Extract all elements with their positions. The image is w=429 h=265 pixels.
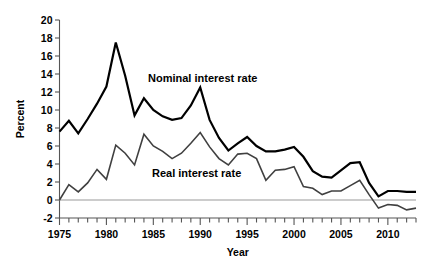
x-axis-tick-label: 1985 [142, 228, 166, 240]
y-axis-tick-label: 18 [41, 32, 53, 44]
x-axis-tick-label: 2005 [329, 228, 353, 240]
x-axis-tick-label: 2000 [282, 228, 306, 240]
x-axis-tick-label: 1990 [189, 228, 213, 240]
x-axis-tick-label: 1980 [95, 228, 119, 240]
x-axis-tick-label: 1995 [235, 228, 259, 240]
x-axis-tick-label: 2010 [376, 228, 400, 240]
y-axis-tick-label: 20 [41, 14, 53, 26]
interest-rate-line-chart: -202468101214161820 19751980198519901995… [0, 0, 429, 265]
y-axis-tick-label: -2 [43, 212, 52, 224]
y-axis-tick-label: 4 [47, 158, 53, 170]
annotation-real-interest-rate: Real interest rate [152, 167, 241, 179]
chart-background [0, 0, 429, 265]
x-axis-title: Year [227, 246, 249, 258]
y-axis-title: Percent [14, 99, 26, 138]
y-axis-tick-label: 8 [47, 122, 53, 134]
x-axis-tick-label: 1975 [48, 228, 72, 240]
y-axis-tick-label: 12 [41, 86, 53, 98]
chart-container: -202468101214161820 19751980198519901995… [0, 0, 429, 265]
y-axis-tick-label: 0 [47, 194, 53, 206]
y-axis-tick-label: 6 [47, 140, 53, 152]
y-axis-tick-label: 2 [47, 176, 53, 188]
y-axis-tick-label: 14 [41, 68, 53, 80]
annotation-nominal-interest-rate: Nominal interest rate [148, 72, 257, 84]
y-axis-tick-label: 16 [41, 50, 53, 62]
y-axis-tick-label: 10 [41, 104, 53, 116]
